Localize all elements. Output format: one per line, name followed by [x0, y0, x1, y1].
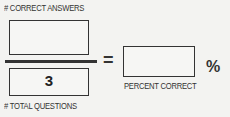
- correct-answers-label: # CORRECT ANSWERS: [4, 3, 84, 13]
- total-questions-field[interactable]: 3: [9, 68, 89, 96]
- percent-sign: %: [206, 58, 220, 76]
- total-questions-value: 3: [10, 72, 88, 89]
- percent-correct-label: PERCENT CORRECT: [124, 81, 197, 91]
- total-questions-label: # TOTAL QUESTIONS: [4, 101, 77, 111]
- equals-sign: =: [103, 50, 114, 71]
- correct-answers-field[interactable]: [9, 20, 89, 55]
- fraction-line: [5, 60, 97, 63]
- percent-correct-field[interactable]: [123, 46, 195, 77]
